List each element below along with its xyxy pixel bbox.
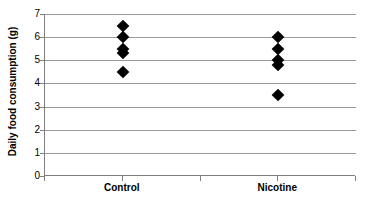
data-point-marker <box>272 31 285 44</box>
plot-area <box>44 14 355 176</box>
x-axis-tick-mark <box>44 176 45 181</box>
x-axis-tick-mark <box>355 176 356 181</box>
gridline <box>45 83 356 84</box>
data-point-marker <box>116 65 129 78</box>
x-axis-tick-mark <box>277 176 278 181</box>
x-axis-category-label: Control <box>104 182 140 193</box>
gridline <box>45 37 356 38</box>
y-axis-tick-marks <box>0 14 44 176</box>
gridline <box>45 153 356 154</box>
gridline <box>45 130 356 131</box>
x-axis-tick-mark <box>122 176 123 181</box>
x-axis-category-label: Nicotine <box>258 182 297 193</box>
x-axis-tick-mark <box>200 176 201 181</box>
gridline <box>45 14 356 15</box>
scatter-chart: Daily food consumption (g) 01234567 Cont… <box>0 0 367 203</box>
gridline <box>45 60 356 61</box>
gridline <box>45 107 356 108</box>
data-point-marker <box>272 89 285 102</box>
